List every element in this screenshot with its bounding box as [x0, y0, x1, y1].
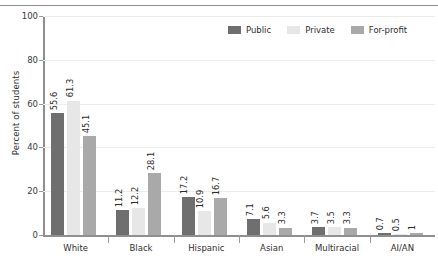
bar-value-label: 0.7	[376, 217, 384, 230]
bar-value-label: 0.5	[392, 218, 400, 231]
x-category-label: White	[43, 243, 108, 253]
bar[interactable]: 3.7	[312, 227, 325, 235]
bar-value-label: 5.6	[261, 207, 269, 220]
bar[interactable]: 12.2	[132, 208, 145, 235]
bar-chart-figure: Percent of students PublicPrivateFor-pro…	[0, 0, 438, 267]
bar-value-label: 55.6	[49, 92, 57, 110]
bar[interactable]: 10.9	[198, 211, 211, 235]
bar[interactable]: 3.3	[279, 228, 292, 235]
x-category-label: Hispanic	[174, 243, 239, 253]
y-tick-mark	[39, 104, 43, 105]
bar[interactable]: 55.6	[51, 113, 64, 235]
bar[interactable]: 3.5	[328, 227, 341, 235]
bar-value-label: 3.3	[343, 212, 351, 225]
x-group-tick	[174, 235, 175, 243]
bar-value-label: 12.2	[131, 187, 139, 205]
x-group-tick	[304, 235, 305, 243]
x-category-label: AI/AN	[370, 243, 435, 253]
y-tick-mark	[39, 147, 43, 148]
bar[interactable]: 3.3	[344, 228, 357, 235]
bar-value-label: 16.7	[212, 177, 220, 195]
bar-value-label: 61.3	[65, 79, 73, 97]
bar[interactable]: 45.1	[83, 136, 96, 235]
gridline	[43, 147, 435, 148]
bar[interactable]: 11.2	[116, 210, 129, 235]
y-tick-mark	[39, 60, 43, 61]
y-tick-label: 80	[27, 55, 38, 65]
x-group-tick	[108, 235, 109, 243]
bar-value-label: 11.2	[115, 189, 123, 207]
bar-value-label: 45.1	[81, 115, 89, 133]
y-axis-line	[43, 16, 45, 235]
bar[interactable]: 0.5	[394, 234, 407, 235]
x-group-tick	[370, 235, 371, 243]
bar-group-multiracial: 3.73.53.3	[312, 16, 357, 235]
bar-value-label: 3.7	[311, 211, 319, 224]
bar-value-label: 7.1	[245, 203, 253, 216]
y-tick-mark	[39, 235, 43, 236]
bar[interactable]: 5.6	[263, 223, 276, 235]
y-tick-mark	[39, 16, 43, 17]
bar[interactable]: 17.2	[182, 197, 195, 235]
bar-group-asian: 7.15.63.3	[247, 16, 292, 235]
bar[interactable]: 0.7	[378, 233, 391, 235]
y-axis-title: Percent of students	[11, 53, 21, 173]
x-category-label: Multiracial	[304, 243, 369, 253]
bar-group-ai-an: 0.70.51	[378, 16, 423, 235]
bar[interactable]: 1	[410, 233, 423, 235]
bar-group-hispanic: 17.210.916.7	[182, 16, 227, 235]
bar-group-black: 11.212.228.1	[116, 16, 161, 235]
plot-area: 02040608010055.661.345.1White11.212.228.…	[43, 16, 435, 235]
x-category-label: Asian	[239, 243, 304, 253]
bar[interactable]: 28.1	[148, 173, 161, 235]
bar[interactable]: 7.1	[247, 219, 260, 235]
y-tick-label: 20	[27, 186, 38, 196]
bar-value-label: 10.9	[196, 190, 204, 208]
x-category-label: Black	[108, 243, 173, 253]
gridline	[43, 191, 435, 192]
y-tick-label: 60	[27, 99, 38, 109]
gridline	[43, 60, 435, 61]
x-group-tick	[239, 235, 240, 243]
gridline	[43, 16, 435, 17]
bar-group-white: 55.661.345.1	[51, 16, 96, 235]
gridline	[43, 104, 435, 105]
bar-value-label: 1	[408, 225, 416, 230]
bar-value-label: 3.3	[277, 212, 285, 225]
y-tick-mark	[39, 191, 43, 192]
bar[interactable]: 16.7	[214, 198, 227, 235]
top-divider-rule	[0, 5, 438, 6]
bar-value-label: 3.5	[327, 211, 335, 224]
y-tick-label: 100	[22, 11, 38, 21]
bar[interactable]: 61.3	[67, 101, 80, 235]
y-tick-label: 40	[27, 142, 38, 152]
bar-value-label: 28.1	[147, 152, 155, 170]
bar-value-label: 17.2	[180, 176, 188, 194]
y-tick-label: 0	[33, 230, 38, 240]
